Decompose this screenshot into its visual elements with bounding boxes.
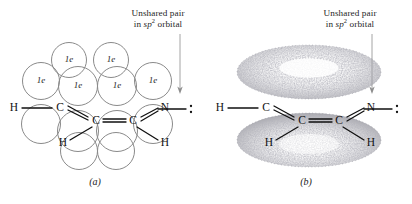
lone-pair-dot <box>190 111 192 113</box>
atom-c-upper-left: C <box>56 101 64 113</box>
atom-n-right: N <box>161 101 170 113</box>
panel-b: Unshared pair in sp2 orbital <box>206 0 412 204</box>
atom-h-lower-right: H <box>367 136 375 148</box>
atom-h-left: H <box>216 101 224 113</box>
lone-pair-dot <box>396 111 398 113</box>
atom-c-center-right: C <box>335 114 343 126</box>
panel-a: Unshared pair in sp2 orbital 1e <box>0 0 206 204</box>
atom-h-left: H <box>10 101 18 113</box>
atom-h-lower-left: H <box>59 136 67 148</box>
atom-h-lower-right: H <box>161 136 169 148</box>
atom-c-center-left: C <box>92 114 100 126</box>
orbital-figure: Unshared pair in sp2 orbital 1e <box>0 0 412 204</box>
atom-n-right: N <box>367 101 376 113</box>
molecular-skeleton-a: H C C C N H H <box>0 0 206 204</box>
panel-caption-a: (a) <box>75 176 115 187</box>
atom-c-center-left: C <box>298 114 306 126</box>
panel-caption-b: (b) <box>286 176 326 187</box>
atom-c-upper-left: C <box>262 101 270 113</box>
atom-h-lower-left: H <box>265 136 273 148</box>
lone-pair-dot <box>396 105 398 107</box>
lone-pair-dot <box>190 105 192 107</box>
molecular-skeleton-b: H C C C N H H <box>206 0 412 204</box>
atom-c-center-right: C <box>129 114 137 126</box>
